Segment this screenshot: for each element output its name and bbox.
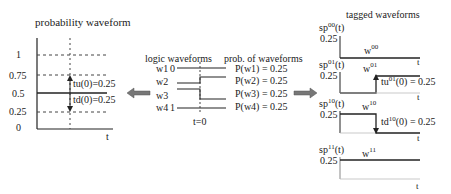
y-tick-0: 0 — [16, 122, 21, 133]
td10-label: td10(0) = 0.25 — [381, 115, 436, 128]
sp10-level: 0.25 — [320, 109, 338, 120]
sp10-plot: sp10(t) 0.25 w10 td10(0) = 0.25 t — [319, 97, 436, 143]
y-tick-05: 0.5 — [12, 88, 25, 99]
sp10-t: t — [417, 133, 420, 143]
w2-label: w2 — [156, 76, 168, 87]
tagged-waveforms-title: tagged waveforms — [346, 9, 420, 20]
y-tick-1: 1 — [16, 49, 21, 60]
prob-w3: P(w3) = 0.25 — [235, 88, 288, 100]
sp11-plot: sp11(t) 0.25 w11 t — [319, 143, 420, 191]
probability-waveform-title: probability waveform — [35, 16, 131, 28]
right-arrow-icon — [294, 88, 317, 98]
tagged-waveforms-panel: tagged waveforms sp00(t) 0.25 w00 t sp01… — [319, 9, 436, 191]
w3-waveform — [177, 89, 226, 99]
w1-init: 0 — [170, 63, 175, 74]
sp00-level: 0.25 — [320, 33, 338, 44]
w10-label: w10 — [362, 99, 377, 112]
x-axis-label: t — [106, 131, 109, 142]
left-arrow-icon — [127, 88, 150, 98]
tu01-arrowhead — [373, 74, 379, 80]
t0-label: t=0 — [193, 116, 206, 127]
w01-label: w01 — [363, 61, 378, 74]
w2-waveform — [177, 77, 226, 83]
y-tick-025: 0.25 — [9, 106, 27, 117]
w00-label: w00 — [364, 43, 379, 56]
tu01-label: tu01(0) = 0.25 — [381, 75, 436, 88]
prob-w4: P(w4) = 0.25 — [235, 101, 288, 113]
prob-w2: P(w2) = 0.25 — [235, 75, 288, 87]
sp11-level: 0.25 — [320, 155, 338, 166]
w4-init: 1 — [170, 102, 175, 113]
sp01-level: 0.25 — [320, 70, 338, 81]
y-tick-075: 0.75 — [9, 70, 27, 81]
logic-waveforms-panel: logic waveforms prob. of waveforms w1 0 … — [145, 53, 303, 127]
diagram-canvas: probability waveform 1 0.75 0.5 0.25 0 t… — [0, 0, 451, 194]
w4-label: w4 — [156, 102, 168, 113]
w3-label: w3 — [156, 90, 168, 101]
prob-w1: P(w1) = 0.25 — [235, 63, 288, 75]
probability-waveform-panel: probability waveform 1 0.75 0.5 0.25 0 t… — [9, 16, 131, 142]
sp01-t: t — [417, 92, 420, 102]
w11-label: w11 — [362, 146, 376, 159]
w1-label: w1 — [156, 63, 168, 74]
tu-label: tu(0)=0.25 — [73, 78, 116, 90]
td-label: td(0)=0.25 — [73, 94, 116, 106]
sp11-t: t — [416, 181, 419, 191]
